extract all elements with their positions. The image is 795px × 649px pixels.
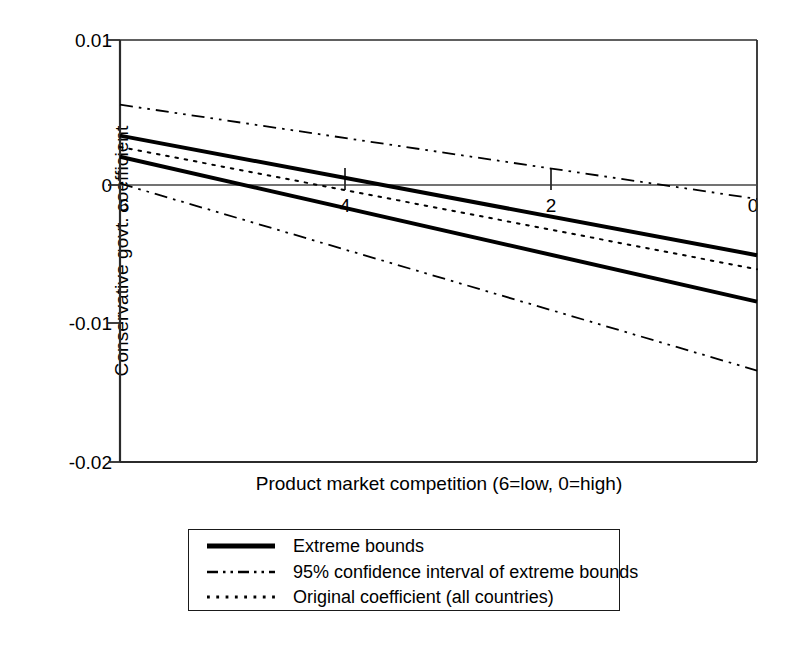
- axes-frame: [120, 40, 757, 462]
- legend-item-original-coefficient: Original coefficient (all countries): [189, 584, 619, 610]
- data-series-layer: [120, 105, 757, 371]
- chart-figure: Conservative govt. coefficient 0.01 0 -0…: [0, 0, 795, 649]
- legend-label-extreme-bounds: Extreme bounds: [293, 537, 424, 555]
- series-line-0: [120, 136, 757, 256]
- legend-item-extreme-bounds: Extreme bounds: [189, 533, 619, 559]
- chart-legend: Extreme bounds 95% confidence interval o…: [188, 529, 620, 611]
- series-line-4: [120, 147, 757, 269]
- legend-swatch-dotted: [205, 588, 277, 606]
- legend-label-confidence-interval: 95% confidence interval of extreme bound…: [293, 563, 638, 581]
- legend-swatch-dash-dot-dot: [205, 563, 277, 581]
- legend-swatch-solid: [205, 537, 277, 555]
- x-tick-marks: [345, 168, 551, 190]
- legend-item-confidence-interval: 95% confidence interval of extreme bound…: [189, 559, 619, 585]
- plot-area: [0, 0, 795, 500]
- legend-label-original-coefficient: Original coefficient (all countries): [293, 588, 554, 606]
- series-line-3: [120, 183, 757, 370]
- x-axis-title: Product market competition (6=low, 0=hig…: [120, 473, 758, 495]
- series-line-1: [120, 157, 757, 302]
- y-tick-marks: [108, 40, 120, 462]
